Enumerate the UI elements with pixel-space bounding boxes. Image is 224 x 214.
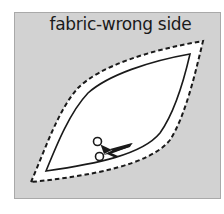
pattern-shapes — [0, 0, 224, 214]
seam-allowance-area — [31, 41, 203, 182]
fabric-cutting-diagram: fabric-wrong side — [0, 0, 224, 214]
